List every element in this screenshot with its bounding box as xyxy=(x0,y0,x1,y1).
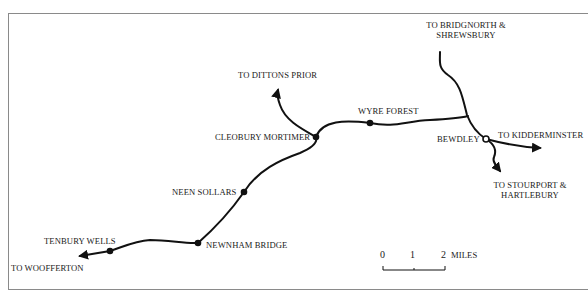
scale-bar xyxy=(383,266,445,270)
destination-label-stourport-line2: HARTLEBURY xyxy=(475,190,585,200)
scale-tick-0: 0 xyxy=(380,249,385,260)
scale-tick-1: 1 xyxy=(410,249,415,260)
station-label-newnham-bridge: NEWNHAM BRIDGE xyxy=(206,240,287,250)
destination-label-kidderminster: TO KIDDERMINSTER xyxy=(498,130,583,140)
destination-label-woofferton: TO WOOFFERTON xyxy=(11,263,84,273)
destination-label-stourport-line1: TO STOURPORT & xyxy=(475,180,585,190)
scale-tick-2: 2 xyxy=(441,249,446,260)
station-label-neen-sollars: NEEN SOLLARS xyxy=(172,187,236,197)
station-dot-bewdley xyxy=(483,136,489,142)
destination-label-bridgnorth-line2: SHREWSBURY xyxy=(406,30,526,40)
scale-unit-label: MILES xyxy=(451,250,477,260)
station-dot-neen-sollars xyxy=(241,189,248,196)
railway-line-bridgnorth xyxy=(440,52,486,139)
station-label-wyre-forest: WYRE FOREST xyxy=(358,106,419,116)
destination-label-dittons-prior: TO DITTONS PRIOR xyxy=(238,70,317,80)
station-label-bewdley: BEWDLEY xyxy=(437,134,480,144)
railway-line-dittons-prior xyxy=(277,90,316,137)
destination-label-bridgnorth: TO BRIDGNORTH & SHREWSBURY xyxy=(406,20,526,40)
station-dot-newnham-bridge xyxy=(195,240,202,247)
station-dot-tenbury-wells xyxy=(107,248,114,255)
destination-label-bridgnorth-line1: TO BRIDGNORTH & xyxy=(406,20,526,30)
station-dot-wyre-forest xyxy=(367,120,374,127)
station-label-cleobury-mortimer: CLEOBURY MORTIMER xyxy=(215,132,310,142)
station-label-tenbury-wells: TENBURY WELLS xyxy=(44,236,116,246)
destination-label-stourport: TO STOURPORT & HARTLEBURY xyxy=(475,180,585,200)
railway-line-stourport xyxy=(486,139,500,171)
station-dot-cleobury-mortimer xyxy=(313,134,320,141)
